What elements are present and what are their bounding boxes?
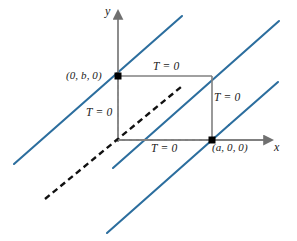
point-label-a-0-0: (a, 0, 0) [212,142,248,153]
plate-solid-edges [118,76,212,141]
y-axis-label: y [105,5,110,17]
blue-level-lines [14,16,279,233]
figure-vector-layer [0,0,297,241]
corner-point-markers [115,73,216,144]
coordinate-axes [118,18,265,142]
x-axis-label: x [274,141,279,153]
blue-line-2 [113,21,279,168]
point-label-0-b-0: (0, b, 0) [66,70,102,81]
boundary-label-left: T = 0 [86,107,112,119]
figure-canvas: y x (0, b, 0) (a, 0, 0) T = 0 T = 0 T = … [0,0,297,241]
boundary-label-right: T = 0 [214,92,240,104]
plate-dashed-edges [118,78,211,140]
boundary-label-top: T = 0 [153,61,179,73]
boundary-label-bottom: T = 0 [151,143,177,155]
point-marker-0-b-0 [115,73,122,80]
blue-line-4 [229,82,278,125]
